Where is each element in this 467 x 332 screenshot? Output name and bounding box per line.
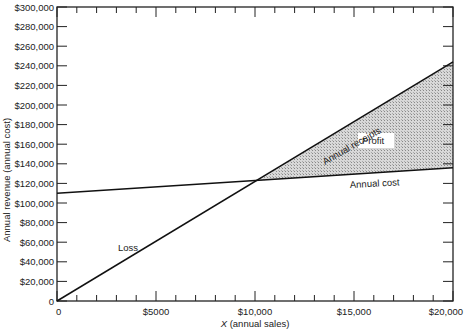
x-tick-label: $5000 (143, 306, 169, 317)
y-tick-label: 0 (49, 296, 54, 307)
y-tick-label: $160,000 (14, 139, 54, 150)
y-tick-label: $300,000 (14, 2, 54, 13)
y-tick-label: $80,000 (20, 217, 54, 228)
x-tick-label: $10,000 (238, 306, 272, 317)
y-axis-title: Annual revenue (annual cost) (1, 118, 12, 242)
break-even-chart: 0$20,000$40,000$60,000$80,000$100,000$12… (0, 0, 467, 332)
y-tick-label: $100,000 (14, 198, 54, 209)
y-tick-label: $40,000 (20, 256, 54, 267)
cost-label: Annual cost (350, 176, 401, 190)
y-tick-label: $180,000 (14, 119, 54, 130)
loss-label: Loss (118, 242, 138, 253)
x-axis-title: X (annual sales) (220, 318, 290, 329)
y-tick-label: $200,000 (14, 100, 54, 111)
y-tick-label: $140,000 (14, 158, 54, 169)
x-tick-label: $15,000 (337, 306, 371, 317)
x-tick-label: $20,000 (429, 306, 463, 317)
y-tick-label: $20,000 (20, 276, 54, 287)
y-tick-label: $60,000 (20, 237, 54, 248)
x-tick-label: 0 (56, 306, 61, 317)
y-tick-label: $220,000 (14, 80, 54, 91)
y-tick-label: $280,000 (14, 21, 54, 32)
y-tick-label: $120,000 (14, 178, 54, 189)
y-tick-label: $240,000 (14, 60, 54, 71)
y-tick-label: $260,000 (14, 41, 54, 52)
